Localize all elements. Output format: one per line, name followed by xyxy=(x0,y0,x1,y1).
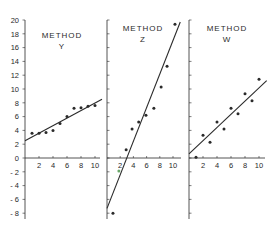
x-tick-label: 2 xyxy=(201,161,205,170)
panel-title-line2: Z xyxy=(140,35,146,44)
x-tick-label: 4 xyxy=(51,161,55,170)
data-point xyxy=(166,65,169,68)
x-tick-label: 8 xyxy=(79,161,83,170)
y-tick-label: 0 xyxy=(15,154,19,163)
data-point xyxy=(131,128,134,131)
fit-line xyxy=(107,22,180,208)
chart-figure: METHOD Y 20181614121086420- 2- 4- 6- 8 2… xyxy=(0,0,277,233)
y-tick-labels: 20181614121086420- 2- 4- 6- 8 xyxy=(10,16,19,218)
data-point xyxy=(125,148,128,151)
y-tick-label: 6 xyxy=(15,112,19,121)
x-tick-label: 4 xyxy=(131,161,135,170)
y-tick-label: 10 xyxy=(11,85,19,94)
y-tick-label: - 4 xyxy=(10,181,19,190)
fit-line xyxy=(25,99,102,140)
data-point xyxy=(73,107,76,110)
data-point xyxy=(223,128,226,131)
data-points xyxy=(31,104,97,135)
x-tick-label: 4 xyxy=(215,161,219,170)
data-point xyxy=(244,92,247,95)
data-point xyxy=(52,129,55,132)
panel-title-line1: METHOD xyxy=(207,24,248,33)
data-point xyxy=(66,115,69,118)
x-tick-label: 6 xyxy=(229,161,233,170)
data-point xyxy=(87,105,90,108)
data-point xyxy=(195,156,198,159)
data-point xyxy=(31,132,34,135)
y-tick-label: 4 xyxy=(15,126,19,135)
axes xyxy=(189,20,265,219)
x-tick-label: 10 xyxy=(169,161,177,170)
data-point xyxy=(144,114,147,117)
regression-line xyxy=(107,22,180,208)
panel-method-y: METHOD Y 20181614121086420- 2- 4- 6- 8 2… xyxy=(10,16,102,219)
x-tick-label: 6 xyxy=(65,161,69,170)
panel-title-line2: Y xyxy=(59,42,65,51)
y-tick-label: - 8 xyxy=(10,209,19,218)
x-tick-label: 2 xyxy=(118,161,122,170)
data-points xyxy=(111,23,176,215)
data-point xyxy=(216,121,219,124)
panel-title-line1: METHOD xyxy=(42,31,83,40)
data-point xyxy=(230,107,233,110)
data-point xyxy=(160,85,163,88)
panel-method-w: METHOD W 246810 xyxy=(189,20,267,219)
data-point xyxy=(45,131,48,134)
data-point xyxy=(94,104,97,107)
panel-title-line1: METHOD xyxy=(123,24,164,33)
x-tick-labels: 246810 xyxy=(37,161,99,170)
panel-title-line2: W xyxy=(223,35,232,44)
data-point xyxy=(137,121,140,124)
x-tick-label: 2 xyxy=(37,161,41,170)
y-tick-label: 20 xyxy=(11,16,19,25)
y-tick-label: 8 xyxy=(15,99,19,108)
data-point xyxy=(80,106,83,109)
x-tick-labels: 246810 xyxy=(118,161,177,170)
data-point xyxy=(258,78,261,81)
y-tick-label: 12 xyxy=(11,71,19,80)
regression-line xyxy=(25,99,102,140)
fit-line xyxy=(189,81,267,154)
data-point xyxy=(209,141,212,144)
panel-method-z: METHOD Z 246810 xyxy=(107,20,181,219)
y-tick-label: - 2 xyxy=(10,168,19,177)
data-point xyxy=(38,132,41,135)
x-tick-labels: 246810 xyxy=(201,161,263,170)
data-point xyxy=(117,170,120,173)
y-tick-label: - 6 xyxy=(10,195,19,204)
y-tick-label: 14 xyxy=(11,57,19,66)
x-tick-label: 10 xyxy=(255,161,263,170)
y-tick-label: 16 xyxy=(11,43,19,52)
regression-line xyxy=(189,81,267,154)
x-tick-label: 8 xyxy=(243,161,247,170)
data-point xyxy=(251,99,254,102)
data-point xyxy=(59,122,62,125)
x-tick-label: 6 xyxy=(145,161,149,170)
x-tick-label: 10 xyxy=(91,161,99,170)
y-tick-label: 18 xyxy=(11,30,19,39)
x-tick-label: 8 xyxy=(158,161,162,170)
y-tick-label: 2 xyxy=(15,140,19,149)
data-point xyxy=(111,212,114,215)
data-point xyxy=(152,107,155,110)
data-point xyxy=(173,23,176,26)
data-point xyxy=(202,134,205,137)
data-point xyxy=(237,112,240,115)
